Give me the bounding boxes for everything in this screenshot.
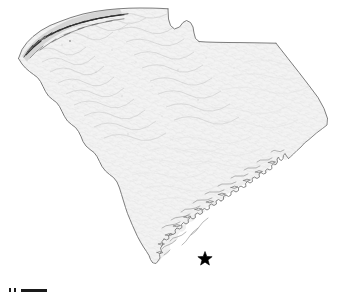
map-figure: [0, 0, 341, 292]
star-icon: [198, 252, 212, 266]
hillshade-texture-group: [0, 0, 341, 292]
site-location-star-marker: [198, 252, 212, 266]
scale-bar: [9, 282, 51, 292]
scale-bar-tick: [9, 288, 11, 292]
state-relief-map-svg: [0, 0, 341, 292]
scale-bar-tick: [14, 288, 16, 292]
